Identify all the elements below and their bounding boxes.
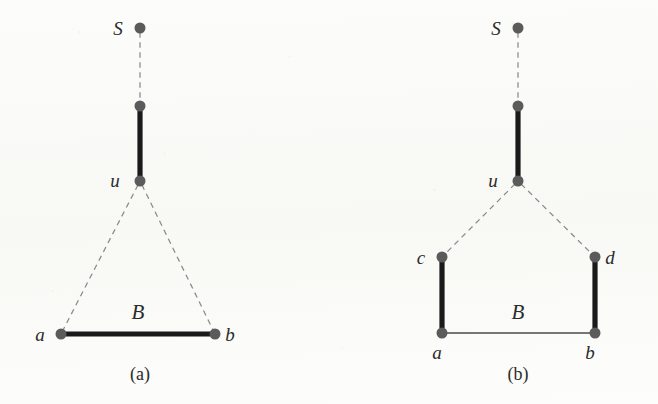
node-a-unlabeled: [135, 101, 146, 112]
node-a-u: [135, 176, 146, 187]
node-label-b-c: c: [417, 247, 426, 268]
node-label-a-S: S: [113, 18, 123, 39]
subfigure-caption-b: (b): [508, 364, 529, 385]
node-a-S: [135, 23, 146, 34]
edge-label-a-B: B: [132, 300, 145, 324]
subfigure-a: BSuab(a): [35, 18, 235, 385]
subfigure-caption-a: (a): [130, 364, 150, 385]
node-label-a-a: a: [35, 324, 45, 345]
edge-b-u-d-dashed: [521, 184, 592, 254]
edge-label-b-B: B: [512, 300, 525, 324]
node-label-b-a: a: [432, 342, 442, 363]
node-a-a: [56, 329, 67, 340]
node-label-a-b: b: [225, 324, 235, 345]
node-label-b-b: b: [585, 342, 595, 363]
node-b-a: [437, 328, 448, 339]
node-label-b-u: u: [488, 170, 498, 191]
node-b-c: [437, 252, 448, 263]
node-a-b: [210, 329, 221, 340]
node-label-b-d: d: [605, 247, 615, 268]
node-label-a-u: u: [110, 170, 120, 191]
node-b-u: [513, 176, 524, 187]
edge-a-u-b-dashed: [142, 185, 213, 330]
node-label-b-S: S: [491, 18, 501, 39]
edge-a-u-a-dashed: [63, 185, 138, 330]
node-b-d: [590, 252, 601, 263]
subfigure-b: BSucdab(b): [417, 18, 615, 385]
node-b-unlabeled: [513, 101, 524, 112]
node-b-S: [513, 23, 524, 34]
edge-b-u-c-dashed: [445, 184, 515, 254]
graph-figure-canvas: BSuab(a)BSucdab(b): [0, 0, 658, 404]
figure-page: BSuab(a)BSucdab(b): [0, 0, 658, 404]
node-b-b: [590, 328, 601, 339]
